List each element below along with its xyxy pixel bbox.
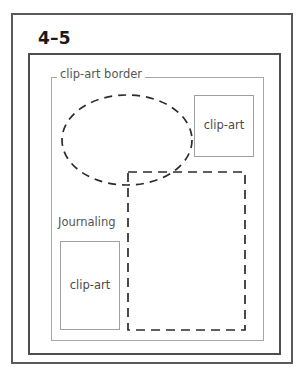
clip-art-box-top-right: clip-art [194,95,254,157]
clip-art-box-bottom-left: clip-art [60,241,120,330]
clip-art-label: clip-art [70,279,110,293]
diagram-canvas: 4–5 clip-art border Journaling clip-art … [0,0,307,379]
page-title: 4–5 [38,30,71,47]
journaling-label: Journaling [56,216,118,230]
clip-art-border-label: clip-art border [57,68,145,82]
clip-art-label: clip-art [204,119,244,133]
